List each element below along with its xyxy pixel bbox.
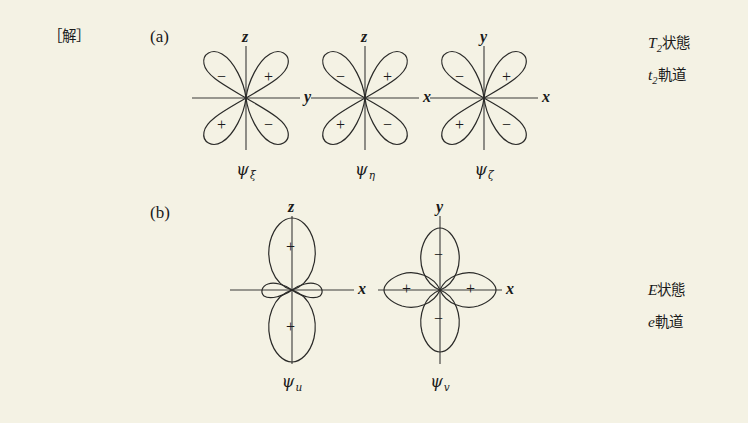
solution-marker: ［解］ bbox=[48, 24, 90, 45]
orbital-caption-psi-zeta: ψζ bbox=[424, 160, 544, 181]
lobe-sign-bottom-left: + bbox=[455, 116, 464, 134]
axis-label-horizontal: x bbox=[358, 280, 366, 298]
lobe-sign-top: + bbox=[286, 238, 295, 256]
page-canvas: ［解］ (a) (b) z y − + + − ψξ bbox=[0, 0, 748, 423]
orbital-psi-u: z x + + ψu bbox=[222, 214, 362, 384]
lobe-sign-bottom-left: + bbox=[336, 116, 345, 134]
lobe-sign-bottom: − bbox=[434, 310, 443, 328]
lobe-sign-right: + bbox=[466, 280, 475, 298]
orbital-word: 軌道 bbox=[655, 314, 683, 330]
lobe-sign-left: + bbox=[402, 280, 411, 298]
side-label-orbital-a: t2軌道 bbox=[648, 62, 690, 94]
side-label-state-a: T2状態 bbox=[648, 30, 690, 62]
lobe-sign-top-left: − bbox=[336, 68, 345, 86]
axis-label-vertical: z bbox=[242, 28, 248, 46]
axis-label-horizontal: x bbox=[506, 280, 514, 298]
state-word: 状態 bbox=[662, 35, 690, 51]
lobe-sign-top-right: + bbox=[264, 68, 273, 86]
lobe-sign-top-left: − bbox=[217, 68, 226, 86]
caption-subscript: v bbox=[443, 381, 450, 393]
orbital-caption-psi-eta: ψη bbox=[305, 160, 425, 181]
caption-symbol: ψ bbox=[236, 160, 249, 179]
side-label-state-b: E状態 bbox=[648, 277, 685, 309]
orbital-psi-eta: z x − + + − ψη bbox=[305, 42, 425, 172]
orbital-psi-xi: z y − + + − ψξ bbox=[186, 42, 306, 172]
part-label-b: (b) bbox=[150, 203, 170, 223]
caption-subscript: η bbox=[368, 169, 375, 181]
axis-label-vertical: y bbox=[436, 198, 443, 216]
side-label-group-b: E状態 e軌道 bbox=[648, 277, 685, 341]
orbital-caption-psi-u: ψu bbox=[222, 372, 362, 393]
caption-subscript: ξ bbox=[249, 169, 256, 181]
lobe-sign-top: − bbox=[434, 246, 443, 264]
orbital-psi-v: y x − − + + ψv bbox=[370, 214, 510, 384]
axis-label-horizontal: x bbox=[542, 88, 550, 106]
caption-symbol: ψ bbox=[282, 372, 295, 391]
side-label-orbital-b: e軌道 bbox=[648, 309, 685, 341]
orbital-psi-zeta: y x − + + − ψζ bbox=[424, 42, 544, 172]
part-label-a: (a) bbox=[150, 27, 169, 47]
caption-symbol: ψ bbox=[474, 160, 487, 179]
caption-subscript: ζ bbox=[487, 169, 494, 181]
state-symbol: T bbox=[648, 34, 657, 51]
caption-symbol: ψ bbox=[355, 160, 368, 179]
axis-label-vertical: y bbox=[480, 28, 487, 46]
lobe-sign-bottom-right: − bbox=[502, 116, 511, 134]
orbital-caption-psi-v: ψv bbox=[370, 372, 510, 393]
lobe-sign-bottom-left: + bbox=[217, 116, 226, 134]
state-word: 状態 bbox=[657, 282, 685, 298]
orbital-word: 軌道 bbox=[658, 67, 686, 83]
orbital-symbol: e bbox=[648, 313, 655, 330]
lobe-sign-bottom-right: − bbox=[383, 116, 392, 134]
lobe-sign-top-left: − bbox=[455, 68, 464, 86]
orbital-caption-psi-xi: ψξ bbox=[186, 160, 306, 181]
caption-subscript: u bbox=[294, 381, 302, 393]
axis-label-vertical: z bbox=[361, 28, 367, 46]
lobe-sign-top-right: + bbox=[383, 68, 392, 86]
lobe-sign-bottom: + bbox=[286, 318, 295, 336]
lobe-sign-bottom-right: − bbox=[264, 116, 273, 134]
side-label-group-a: T2状態 t2軌道 bbox=[648, 30, 690, 94]
caption-symbol: ψ bbox=[430, 372, 443, 391]
axis-label-vertical: z bbox=[288, 198, 294, 216]
lobe-sign-top-right: + bbox=[502, 68, 511, 86]
